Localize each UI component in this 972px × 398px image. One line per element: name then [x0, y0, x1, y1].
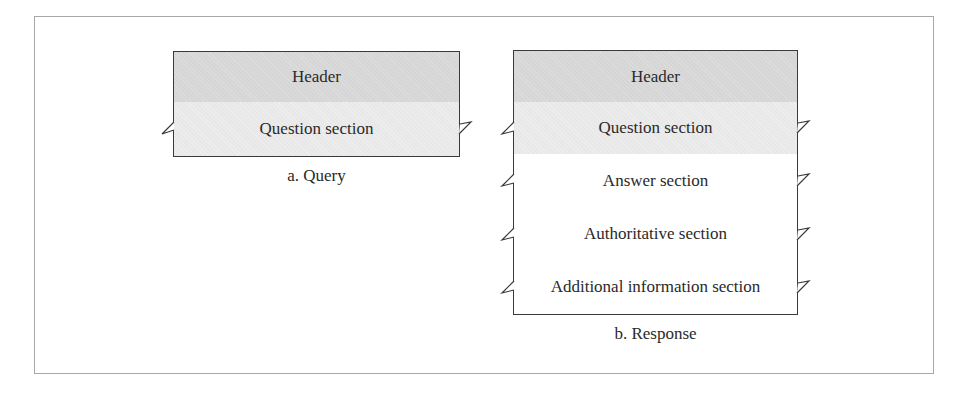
response-additional-label: Additional information section — [551, 277, 761, 297]
response-message-diagram: Header Question section Answer section A… — [513, 50, 798, 315]
response-header-label: Header — [631, 67, 680, 87]
response-question-section: Question section — [513, 102, 798, 155]
query-header-label: Header — [292, 67, 341, 87]
response-question-label: Question section — [599, 118, 713, 138]
query-question-label: Question section — [260, 119, 374, 139]
figure-frame — [34, 16, 934, 374]
response-additional-section: Additional information section — [513, 260, 798, 315]
query-header-field: Header — [173, 51, 460, 103]
response-authoritative-section: Authoritative section — [513, 207, 798, 261]
query-caption: a. Query — [173, 166, 460, 186]
query-question-section: Question section — [173, 102, 460, 157]
response-authoritative-label: Authoritative section — [584, 224, 727, 244]
query-message-diagram: Header Question section — [173, 51, 460, 157]
response-answer-section: Answer section — [513, 154, 798, 208]
response-answer-label: Answer section — [603, 171, 708, 191]
response-header-field: Header — [513, 50, 798, 103]
response-caption: b. Response — [513, 324, 798, 344]
